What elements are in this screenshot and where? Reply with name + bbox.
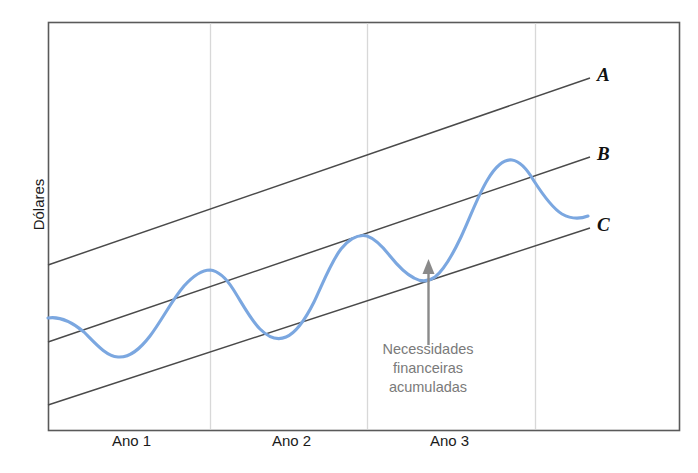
x-tick-label-ano-2: Ano 2: [272, 432, 311, 449]
y-axis-label: Dólares: [30, 145, 47, 265]
series-label-a: A: [597, 64, 610, 86]
chart-figure: Dólares Ano 1 Ano 2 Ano 3 A B C Necessid…: [0, 0, 698, 473]
annotation-line-3: acumuladas: [352, 378, 504, 397]
chart-canvas: [0, 0, 698, 473]
series-label-b: B: [597, 143, 610, 165]
annotation-text: Necessidades financeiras acumuladas: [352, 340, 504, 397]
x-tick-label-ano-1: Ano 1: [112, 432, 151, 449]
annotation-line-2: financeiras: [352, 359, 504, 378]
series-label-c: C: [597, 214, 610, 236]
x-tick-label-ano-3: Ano 3: [430, 432, 469, 449]
annotation-line-1: Necessidades: [352, 340, 504, 359]
